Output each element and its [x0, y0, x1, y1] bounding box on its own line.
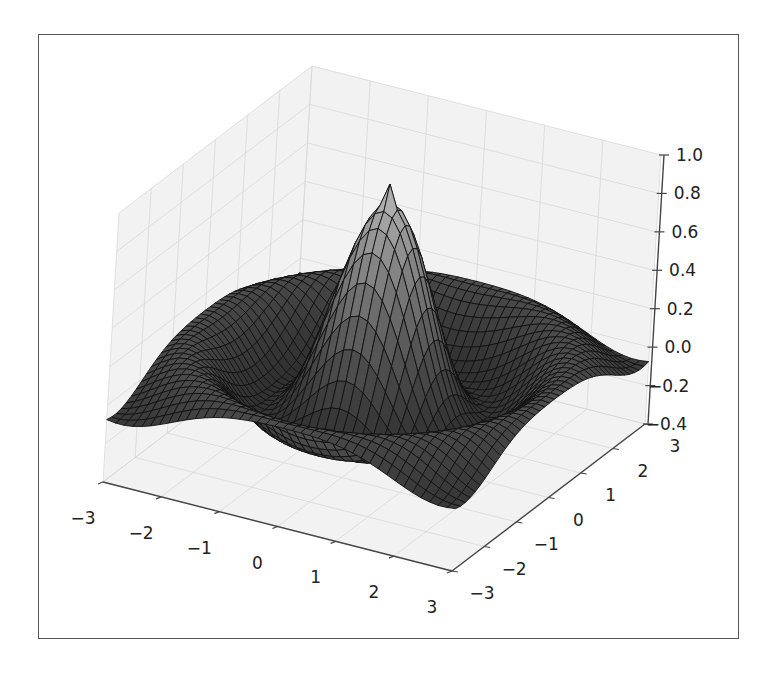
x-tick-label: 3 — [427, 597, 438, 617]
y-tick-label: 0 — [573, 510, 584, 530]
surface-plot-3d: −3−2−10123 −3−2−10123 −0.4−0.20.00.20.40… — [0, 0, 771, 673]
x-tick-label: −3 — [70, 508, 95, 528]
x-tick-label: 2 — [368, 582, 379, 602]
figure: −3−2−10123 −3−2−10123 −0.4−0.20.00.20.40… — [0, 0, 771, 673]
x-tick-label: −1 — [187, 538, 212, 558]
y-tick-label: −3 — [469, 583, 494, 603]
y-tick-label: 3 — [670, 436, 681, 456]
z-tick-label: 0.4 — [669, 260, 696, 280]
x-tick-label: 1 — [310, 567, 321, 587]
z-tick-label: −0.4 — [646, 414, 687, 434]
y-tick-label: 1 — [605, 485, 616, 505]
z-tick-label: −0.2 — [648, 376, 689, 396]
x-tick-label: 0 — [252, 553, 263, 573]
z-tick-label: 0.2 — [667, 299, 694, 319]
y-tick-label: −2 — [502, 559, 527, 579]
x-tick-label: −2 — [129, 523, 154, 543]
z-tick-label: 1.0 — [676, 145, 703, 165]
y-tick-label: 2 — [637, 461, 648, 481]
z-tick-label: 0.6 — [671, 222, 698, 242]
z-tick-label: 0.8 — [674, 183, 701, 203]
y-tick-label: −1 — [534, 534, 559, 554]
z-tick-label: 0.0 — [665, 337, 692, 357]
